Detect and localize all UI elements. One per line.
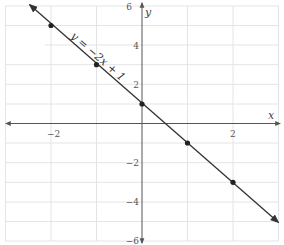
y-tick-label: 2 xyxy=(133,80,139,90)
y-tick-label: −6 xyxy=(126,236,140,245)
point-2-neg3 xyxy=(230,180,235,185)
x-axis-label: x xyxy=(268,109,275,122)
y-axis-label: y xyxy=(144,6,152,19)
y-tick-label: 4 xyxy=(133,41,139,51)
x-tick-label: −2 xyxy=(47,129,60,139)
coordinate-plane: x y −2 2 6 4 2 −2 −4 −6 y = −2x + 1 xyxy=(0,0,284,245)
point-neg1-3 xyxy=(94,62,99,67)
line-y-eq-neg2x-plus1 xyxy=(30,5,278,222)
x-tick-label: 2 xyxy=(230,129,236,139)
y-tick-label: 6 xyxy=(126,2,132,12)
point-1-neg1 xyxy=(185,140,190,145)
y-tick-label: −2 xyxy=(126,158,139,168)
point-neg2-5 xyxy=(48,23,53,28)
equation-label: y = −2x + 1 xyxy=(67,29,128,84)
point-0-1 xyxy=(139,101,144,106)
y-tick-label: −4 xyxy=(126,197,140,207)
